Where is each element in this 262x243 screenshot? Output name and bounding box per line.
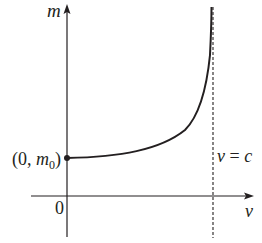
asymptote-label: v = c	[217, 146, 252, 166]
relativistic-mass-chart: m v 0 (0, m0) v = c	[0, 0, 262, 243]
y-axis-label: m	[47, 0, 61, 21]
origin-label: 0	[55, 198, 64, 218]
mass-curve	[67, 7, 212, 158]
x-axis-label: v	[245, 201, 253, 221]
start-point-label: (0, m0)	[12, 149, 61, 172]
start-point	[64, 155, 70, 161]
